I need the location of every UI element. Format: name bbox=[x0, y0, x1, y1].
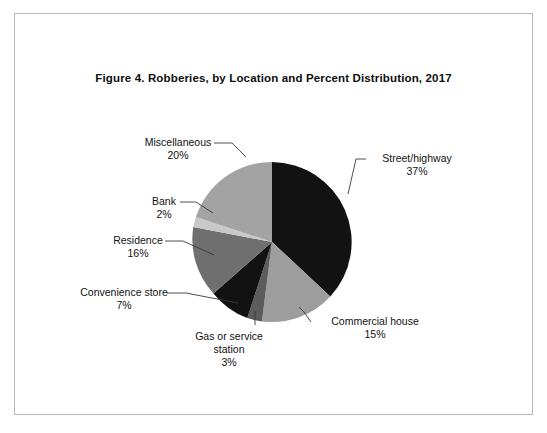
pie-label-bank-name: Bank bbox=[133, 195, 195, 208]
pie-label-miscellaneous-percent: 20% bbox=[126, 149, 230, 162]
pie-label-commercial-house: Commercial house 15% bbox=[313, 315, 437, 341]
pie-label-residence-name: Residence bbox=[92, 234, 184, 247]
pie-label-residence: Residence 16% bbox=[92, 234, 184, 260]
pie-label-street-highway-percent: 37% bbox=[363, 165, 471, 178]
pie-slices bbox=[192, 162, 351, 322]
pie-chart: Miscellaneous 20% Bank 2% Residence 16% … bbox=[0, 0, 547, 433]
pie-label-street-highway: Street/highway 37% bbox=[363, 152, 471, 178]
pie-label-street-highway-name: Street/highway bbox=[363, 152, 471, 165]
pie-label-bank-percent: 2% bbox=[133, 208, 195, 221]
pie-label-convenience-store: Convenience store 7% bbox=[67, 286, 181, 312]
pie-label-bank: Bank 2% bbox=[133, 195, 195, 221]
pie-label-gas-or-service-station: Gas or service station 3% bbox=[174, 330, 284, 369]
pie-label-gas-or-service-station-name-line2: station bbox=[174, 343, 284, 356]
pie-label-residence-percent: 16% bbox=[92, 247, 184, 260]
pie-label-commercial-house-percent: 15% bbox=[313, 328, 437, 341]
pie-label-gas-or-service-station-percent: 3% bbox=[174, 356, 284, 369]
pie-label-miscellaneous: Miscellaneous 20% bbox=[126, 136, 230, 162]
pie-label-convenience-store-percent: 7% bbox=[67, 299, 181, 312]
pie-label-miscellaneous-name: Miscellaneous bbox=[126, 136, 230, 149]
pie-label-convenience-store-name: Convenience store bbox=[67, 286, 181, 299]
pie-label-commercial-house-name: Commercial house bbox=[313, 315, 437, 328]
pie-label-gas-or-service-station-name: Gas or service bbox=[174, 330, 284, 343]
